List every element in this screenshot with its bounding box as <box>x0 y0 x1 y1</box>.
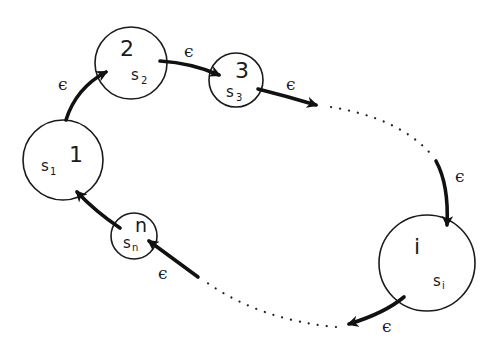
edge-i-to-ellipsis: ϵ <box>349 297 404 336</box>
edge-into-n-label: ϵ <box>158 263 168 283</box>
node-n-state-sub: n <box>132 242 138 253</box>
node-3: 3 s 3 <box>209 53 263 107</box>
node-n-label: n <box>135 214 147 236</box>
arrow-icon <box>66 72 106 120</box>
edge-ellipsis-to-i: ϵ <box>436 161 465 225</box>
node-i-state: s <box>433 272 441 290</box>
state-cycle-diagram: 1 s 1 2 s 2 3 s 3 i s i n s n ϵ ϵ <box>0 0 493 349</box>
node-2-label: 2 <box>120 36 134 61</box>
node-i-label: i <box>414 234 420 259</box>
node-i-state-sub: i <box>442 280 445 291</box>
edge-into-i-label: ϵ <box>455 166 465 186</box>
edge-ellipsis-to-n: ϵ <box>149 241 198 283</box>
node-2-state-sub: 2 <box>141 75 147 86</box>
edge-3-out-label: ϵ <box>286 74 296 94</box>
edge-2-to-3: ϵ <box>160 41 219 75</box>
node-1-label: 1 <box>69 142 83 167</box>
node-2: 2 s 2 <box>95 27 167 99</box>
node-3-state-sub: 3 <box>236 92 242 103</box>
node-3-state: s <box>226 83 234 101</box>
node-1-state-sub: 1 <box>50 166 56 177</box>
ellipsis-path-bottom <box>206 282 336 327</box>
ellipsis-path-top <box>331 107 430 153</box>
node-1: 1 s 1 <box>23 120 103 200</box>
arrow-icon <box>149 241 198 277</box>
arrow-icon <box>77 192 120 228</box>
edge-1-to-2-label: ϵ <box>58 74 68 94</box>
node-3-label: 3 <box>235 58 249 83</box>
node-n-state: s <box>123 234 131 252</box>
node-2-state: s <box>131 66 139 84</box>
node-n: n s n <box>111 213 157 259</box>
edge-3-to-ellipsis: ϵ <box>258 74 316 105</box>
arrow-icon <box>349 297 404 324</box>
arrow-icon <box>160 61 219 75</box>
edge-n-to-1 <box>77 192 120 228</box>
edge-i-out-label: ϵ <box>382 316 392 336</box>
node-1-state: s <box>41 157 49 175</box>
node-i: i s i <box>379 215 475 311</box>
edge-2-to-3-label: ϵ <box>184 41 194 61</box>
